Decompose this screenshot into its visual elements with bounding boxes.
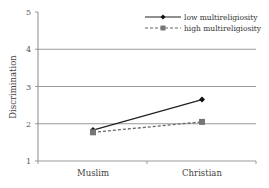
diamond-marker xyxy=(199,97,205,103)
interaction-line-chart: 12345 MuslimChristian Discrimination low… xyxy=(0,0,269,188)
legend: low multireligiosityhigh multireligiosit… xyxy=(145,13,262,33)
square-marker xyxy=(199,119,205,125)
y-tick-label: 2 xyxy=(26,120,31,129)
square-marker xyxy=(90,129,96,135)
legend-label: high multireligiosity xyxy=(184,24,262,33)
y-tick-labels: 12345 xyxy=(26,8,31,166)
y-axis-title: Discrimination xyxy=(8,55,18,119)
axes xyxy=(35,12,256,164)
x-category-label: Christian xyxy=(182,168,222,178)
data-series xyxy=(90,97,205,136)
y-tick-label: 4 xyxy=(26,45,31,54)
y-tick-label: 3 xyxy=(26,83,31,92)
legend-diamond-marker xyxy=(161,15,166,20)
series-line xyxy=(93,100,202,131)
y-tick-label: 5 xyxy=(26,8,31,17)
legend-label: low multireligiosity xyxy=(184,13,258,22)
gridlines xyxy=(38,49,256,124)
x-category-labels: MuslimChristian xyxy=(77,168,222,178)
y-tick-label: 1 xyxy=(26,157,31,166)
legend-square-marker xyxy=(161,26,166,31)
x-category-label: Muslim xyxy=(77,168,109,178)
